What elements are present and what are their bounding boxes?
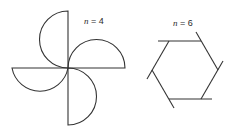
pinwheel-blade-left: [12, 68, 68, 91]
pinwheel-label-value: = 4: [89, 16, 104, 26]
hexagon-figure: [147, 32, 223, 108]
pinwheel-blade-bottom: [68, 68, 97, 125]
pinwheel-blade-right: [68, 40, 125, 69]
hexagon-side-upper-left: [147, 41, 169, 79]
diagram-canvas: [0, 0, 233, 131]
hexagon-label: n = 6: [173, 18, 193, 28]
pinwheel-blade-top: [40, 11, 69, 68]
hexagon-side-upper-right: [196, 32, 218, 70]
pinwheel-figure: [12, 11, 125, 125]
hexagon-label-value: = 6: [178, 18, 193, 28]
pinwheel-label: n = 4: [84, 16, 104, 26]
hexagon-side-lower-left: [152, 70, 174, 108]
hexagon-side-lower-right: [201, 61, 223, 99]
